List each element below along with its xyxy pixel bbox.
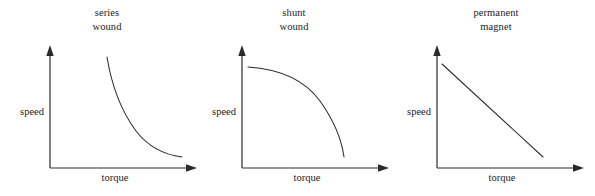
curve-shunt-wound xyxy=(248,67,344,157)
y-axis-arrow-icon xyxy=(46,45,53,56)
y-axis-arrow-icon xyxy=(238,45,245,56)
plot-shunt-wound xyxy=(192,0,390,196)
y-axis-label-speed: speed xyxy=(2,106,44,117)
plot-series-wound xyxy=(0,0,198,196)
x-axis-arrow-icon xyxy=(573,164,584,171)
panel-shunt-wound: shunt wound speed torque xyxy=(192,0,390,196)
panel-series-wound: series wound speed torque xyxy=(0,0,198,196)
plot-permanent-magnet xyxy=(387,0,585,196)
panel-permanent-magnet: permanent magnet speed torque xyxy=(387,0,585,196)
curve-series-wound xyxy=(107,57,182,157)
x-axis-label-torque: torque xyxy=(467,172,537,183)
y-axis-label-speed: speed xyxy=(389,106,431,117)
x-axis-label-torque: torque xyxy=(80,172,150,183)
curve-permanent-magnet xyxy=(442,64,543,157)
x-axis-label-torque: torque xyxy=(272,172,342,183)
y-axis-label-speed: speed xyxy=(194,106,236,117)
speed-torque-figure: series wound speed torque shunt wound xyxy=(0,0,595,196)
y-axis-arrow-icon xyxy=(433,45,440,56)
